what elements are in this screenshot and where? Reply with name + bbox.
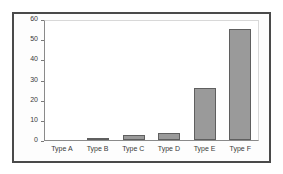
x-axis-category-label: Type E <box>187 144 223 153</box>
bar-slot <box>116 21 151 140</box>
y-axis-tick-label: 60 <box>30 15 38 23</box>
y-axis-tick-label: 30 <box>30 76 38 84</box>
bar-type-c <box>123 135 145 140</box>
bar-slot <box>152 21 187 140</box>
x-axis-category-label: Type A <box>44 144 80 153</box>
bar-slot <box>223 21 258 140</box>
bar-slot <box>45 21 80 140</box>
x-axis-category-label: Type B <box>80 144 116 153</box>
bar-type-b <box>87 138 109 140</box>
bar-slot <box>81 21 116 140</box>
x-axis: Type AType BType CType DType EType F <box>44 144 259 153</box>
y-axis-tick-label: 10 <box>30 116 38 124</box>
y-axis-tick-mark <box>41 141 44 142</box>
bar-slot <box>187 21 222 140</box>
y-axis: 0102030405060 <box>14 14 44 141</box>
x-axis-category-label: Type F <box>222 144 258 153</box>
y-axis-tick-label: 20 <box>30 96 38 104</box>
bar-type-e <box>194 88 216 140</box>
bars-layer <box>45 21 258 140</box>
y-axis-tick-label: 0 <box>34 136 38 144</box>
y-axis-tick-label: 50 <box>30 35 38 43</box>
bar-type-f <box>229 29 251 140</box>
x-axis-category-label: Type C <box>115 144 151 153</box>
y-axis-tick-label: 40 <box>30 55 38 63</box>
x-axis-category-label: Type D <box>151 144 187 153</box>
chart-frame: 0102030405060 Type AType BType CType DTy… <box>12 12 271 163</box>
plot-area <box>44 20 259 141</box>
bar-type-d <box>158 133 180 140</box>
chart-canvas: 0102030405060 Type AType BType CType DTy… <box>14 14 269 161</box>
